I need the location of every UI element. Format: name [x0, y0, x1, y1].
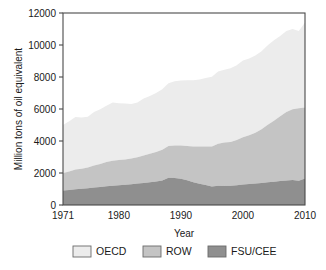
y-tick-label: 8000 [34, 72, 57, 83]
x-axis-ticks: 19711980199020002010 [52, 210, 317, 221]
legend-item-row: ROW [143, 245, 192, 257]
legend-swatch-fsu-cee [208, 246, 226, 257]
y-tick-label: 10000 [28, 40, 56, 51]
chart-figure: 020004000600080001000012000 197119801990… [0, 0, 326, 270]
chart-legend: OECD ROW FSU/CEE [73, 245, 277, 257]
y-axis-title: Million tons of oil equivalent [13, 48, 24, 171]
legend-item-oecd: OECD [73, 245, 127, 257]
x-tick-label: 1971 [52, 210, 75, 221]
stacked-area-chart: 020004000600080001000012000 197119801990… [0, 0, 326, 270]
legend-label-fsu-cee: FSU/CEE [231, 245, 277, 257]
y-tick-label: 2000 [34, 168, 57, 179]
legend-label-oecd: OECD [96, 245, 127, 257]
y-tick-label: 12000 [28, 8, 56, 19]
x-tick-label: 1980 [108, 210, 131, 221]
x-tick-label: 2000 [232, 210, 255, 221]
legend-item-fsu-cee: FSU/CEE [208, 245, 277, 257]
y-tick-label: 0 [50, 200, 56, 211]
x-tick-label: 1990 [170, 210, 193, 221]
y-tick-label: 4000 [34, 136, 57, 147]
legend-swatch-oecd [73, 246, 91, 257]
y-axis-ticks: 020004000600080001000012000 [28, 8, 63, 211]
legend-label-row: ROW [166, 245, 192, 257]
x-tick-label: 2010 [294, 210, 317, 221]
legend-swatch-row [143, 246, 161, 257]
y-tick-label: 6000 [34, 104, 57, 115]
x-axis-title: Year [174, 228, 195, 239]
